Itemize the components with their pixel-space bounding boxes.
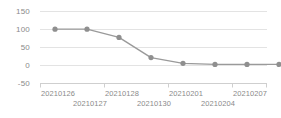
xtick-label-20210127: 20210127: [73, 99, 107, 108]
data-point: [116, 35, 121, 40]
data-point: [148, 55, 153, 60]
data-point: [212, 62, 217, 67]
ytick-label-150: 150: [2, 7, 30, 16]
xtick-label-20210128: 20210128: [105, 89, 139, 98]
ytick-label-100: 100: [2, 25, 30, 34]
xtick-label-20210204: 20210204: [201, 99, 235, 108]
line-chart: 150 100 50 0 -50 20210126 20210127 20210…: [0, 0, 281, 118]
ytick-label-neg50: -50: [2, 79, 30, 88]
xtick-label-20210126: 20210126: [41, 89, 75, 98]
data-point: [84, 27, 89, 32]
ytick-label-0: 0: [2, 61, 30, 70]
data-point: [244, 62, 249, 67]
data-point: [180, 61, 185, 66]
x-axis-ticks: [41, 84, 267, 88]
data-point: [276, 62, 281, 67]
data-series-line: [55, 29, 279, 64]
xtick-label-20210201: 20210201: [169, 89, 203, 98]
xtick-label-20210207: 20210207: [233, 89, 267, 98]
ytick-label-50: 50: [2, 43, 30, 52]
xtick-label-20210130: 20210130: [137, 99, 171, 108]
data-point: [52, 27, 57, 32]
